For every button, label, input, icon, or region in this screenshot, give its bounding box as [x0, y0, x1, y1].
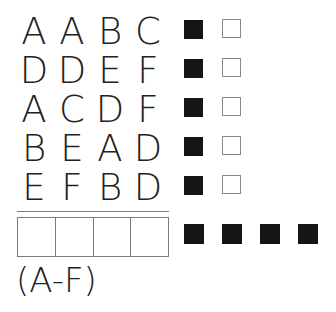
guess-letter: E [53, 132, 91, 166]
black-peg-icon [184, 98, 203, 117]
guess-letter: E [15, 171, 53, 205]
guess-letter: D [129, 171, 167, 205]
guess-letter: B [15, 132, 53, 166]
guess-row-5: E F B D [15, 171, 335, 210]
answer-black-peg-icon [298, 224, 318, 244]
black-peg-icon [184, 20, 203, 39]
black-peg-icon [184, 59, 203, 78]
white-peg-icon [222, 58, 241, 77]
guess-letter: A [91, 132, 129, 166]
guess-letter: F [53, 171, 91, 205]
guess-letter: B [91, 15, 129, 49]
guess-letter: F [129, 93, 167, 127]
answer-black-peg-icon [184, 224, 204, 244]
black-peg-icon [184, 176, 203, 195]
black-peg-icon [184, 137, 203, 156]
answer-cell-3[interactable] [94, 218, 132, 256]
guess-letter: E [91, 54, 129, 88]
guess-letter: A [53, 15, 91, 49]
answer-cell-1[interactable] [18, 218, 56, 256]
answer-cell-2[interactable] [56, 218, 94, 256]
guess-letter: D [53, 54, 91, 88]
answer-black-peg-icon [260, 224, 280, 244]
guess-letter: D [129, 132, 167, 166]
guess-letter: A [15, 93, 53, 127]
guess-letter: D [15, 54, 53, 88]
divider-line [17, 211, 169, 212]
guess-letter: F [129, 54, 167, 88]
answer-black-peg-icon [222, 224, 242, 244]
white-peg-icon [222, 19, 241, 38]
letter-range-hint: (A-F) [16, 262, 97, 298]
white-peg-icon [222, 97, 241, 116]
guess-letter: D [91, 93, 129, 127]
white-peg-icon [222, 175, 241, 194]
guess-letter: C [53, 93, 91, 127]
guess-letter: B [91, 171, 129, 205]
answer-input-row [17, 217, 169, 257]
answer-cell-4[interactable] [131, 218, 168, 256]
guess-letter: C [129, 15, 167, 49]
white-peg-icon [222, 136, 241, 155]
guess-letter: A [15, 15, 53, 49]
